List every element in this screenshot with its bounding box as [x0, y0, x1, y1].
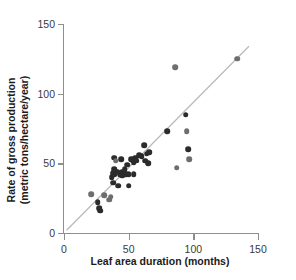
scatter-plot-figure: Rate of gross production (metric tons/he… [0, 0, 296, 280]
x-tick-100 [193, 234, 194, 240]
data-point [185, 147, 191, 153]
y-axis-title: Rate of gross production (metric tons/he… [0, 0, 34, 280]
data-point [108, 194, 114, 200]
data-point [116, 183, 122, 189]
x-tick-150 [258, 234, 259, 240]
data-point [147, 149, 153, 155]
data-point [134, 158, 140, 164]
data-point [141, 142, 147, 148]
data-points-layer [64, 24, 258, 233]
plot-area: 050100150 050100150 [64, 24, 258, 233]
y-tick-label-150: 150 [37, 18, 55, 30]
data-point [97, 208, 103, 214]
x-tick-0 [64, 234, 65, 240]
y-tick-label-50: 50 [43, 157, 55, 169]
x-tick-label-150: 150 [249, 243, 267, 255]
data-point [172, 64, 178, 70]
data-point [125, 162, 131, 168]
x-tick-label-100: 100 [185, 243, 203, 255]
x-tick-label-0: 0 [61, 243, 67, 255]
data-point [145, 161, 151, 167]
data-point [165, 128, 171, 134]
y-tick-label-0: 0 [49, 227, 55, 239]
y-axis-title-line-2: (metric tons/hectare/year) [18, 76, 30, 204]
data-point [183, 112, 189, 118]
data-point [187, 156, 193, 162]
x-tick-50 [129, 234, 130, 240]
y-axis-title-line-1: Rate of gross production [5, 78, 17, 203]
data-point [131, 172, 137, 178]
y-tick-label-100: 100 [37, 88, 55, 100]
x-axis-title: Leaf area duration (months) [40, 255, 280, 267]
data-point [118, 156, 124, 162]
x-tick-label-50: 50 [123, 243, 135, 255]
x-axis-spine [63, 233, 259, 234]
data-point [88, 191, 94, 197]
data-point [126, 183, 132, 189]
data-point [184, 128, 190, 134]
data-point [174, 165, 180, 171]
data-point [235, 56, 241, 62]
